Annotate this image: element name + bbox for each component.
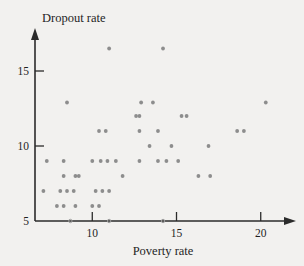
- data-point: [90, 159, 94, 163]
- x-tick-label: 20: [255, 227, 267, 239]
- data-point: [77, 174, 81, 178]
- x-axis-arrowhead: [284, 217, 296, 225]
- data-point: [90, 204, 94, 208]
- data-point: [138, 129, 142, 133]
- y-axis: [31, 28, 39, 221]
- data-point: [242, 129, 246, 133]
- data-point: [180, 114, 184, 118]
- data-point: [170, 144, 174, 148]
- data-point: [138, 159, 142, 163]
- data-point: [139, 101, 143, 105]
- data-point-group: [42, 47, 268, 223]
- y-tick-label: 15: [18, 65, 30, 77]
- y-axis-arrowhead: [31, 28, 39, 40]
- data-point: [72, 189, 76, 193]
- data-point: [74, 204, 78, 208]
- x-axis: [35, 217, 296, 225]
- data-point: [106, 159, 110, 163]
- data-point: [176, 159, 180, 163]
- data-point: [62, 204, 66, 208]
- data-point: [185, 114, 189, 118]
- data-point: [55, 204, 59, 208]
- data-point: [151, 101, 155, 105]
- data-point: [197, 174, 201, 178]
- x-tick-group: 101520: [87, 212, 267, 239]
- data-point: [138, 114, 142, 118]
- x-tick-label: 10: [87, 227, 99, 239]
- data-point: [208, 174, 212, 178]
- chart-canvas: 51015 101520 Dropout rate Poverty rate: [0, 0, 304, 266]
- x-axis-label: Poverty rate: [133, 244, 194, 258]
- data-point: [264, 101, 268, 105]
- data-point: [97, 129, 101, 133]
- data-point: [74, 174, 78, 178]
- scatter-plot: 51015 101520 Dropout rate Poverty rate: [0, 0, 304, 266]
- data-point: [104, 129, 108, 133]
- data-point: [107, 189, 111, 193]
- data-point: [134, 114, 138, 118]
- data-point: [94, 189, 98, 193]
- data-point: [65, 101, 69, 105]
- y-tick-label: 10: [18, 140, 30, 152]
- data-point: [97, 204, 101, 208]
- x-tick-label: 15: [171, 227, 183, 239]
- data-point: [99, 159, 103, 163]
- y-tick-group: 51015: [18, 65, 45, 227]
- y-tick-label: 5: [23, 215, 29, 227]
- data-point: [42, 189, 46, 193]
- data-point: [156, 129, 160, 133]
- data-point: [235, 129, 239, 133]
- data-point: [65, 189, 69, 193]
- data-point: [62, 159, 66, 163]
- data-point: [156, 159, 160, 163]
- data-point: [148, 144, 152, 148]
- data-point: [62, 174, 66, 178]
- data-point: [107, 47, 111, 51]
- data-point: [45, 159, 49, 163]
- data-point: [161, 47, 165, 51]
- data-point: [165, 159, 169, 163]
- data-point: [207, 144, 211, 148]
- data-point: [121, 174, 125, 178]
- data-point: [100, 189, 104, 193]
- y-axis-label: Dropout rate: [42, 11, 106, 25]
- data-point: [114, 159, 118, 163]
- data-point: [58, 189, 62, 193]
